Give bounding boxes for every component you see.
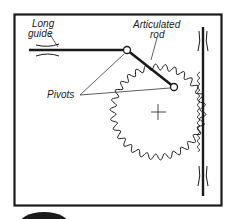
bottom-decoration — [18, 212, 70, 219]
pivot-left — [124, 47, 131, 54]
frame — [15, 15, 222, 206]
label-rod: rod — [150, 30, 164, 40]
rack-teeth — [198, 72, 201, 152]
label-pivots: Pivots — [47, 90, 74, 100]
articulated-rod-leader — [151, 38, 157, 60]
pivots-leader-left — [80, 54, 124, 95]
articulated-rod — [127, 50, 174, 87]
label-guide: guide — [28, 29, 52, 39]
pivots-leader-right — [80, 88, 170, 95]
pivot-right — [171, 84, 178, 91]
